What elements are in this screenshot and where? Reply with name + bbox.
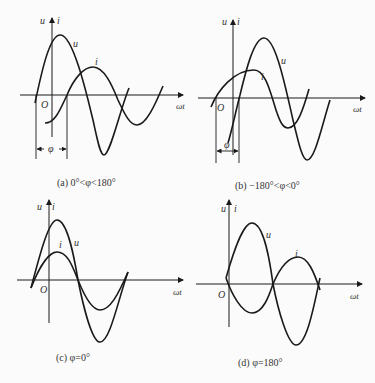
panel-c [17, 200, 183, 342]
i-axis-label: i [52, 202, 55, 212]
x-axis-label: ωt [353, 104, 362, 114]
i-curve-label: i [295, 249, 298, 259]
phase-label: φ [48, 144, 54, 154]
i-curve [211, 70, 309, 128]
x-axis-label: ωt [350, 291, 359, 301]
u-axis-label: u [221, 204, 226, 214]
i-axis-label: i [57, 16, 60, 26]
u-axis-label: u [222, 17, 227, 27]
i-curve-label: i [59, 240, 62, 250]
panel-a [20, 18, 183, 159]
i-axis-label: i [234, 204, 237, 214]
i-curve [45, 67, 163, 125]
origin-label: O [40, 285, 47, 295]
i-curve [31, 252, 128, 310]
caption-b: (b) −180°<φ<0° [235, 180, 300, 191]
caption-c: (c) φ=0° [56, 352, 90, 363]
panel-d [196, 200, 362, 345]
u-axis-label: u [40, 16, 45, 26]
phase-difference-diagram [0, 0, 375, 383]
origin-label: O [217, 103, 224, 113]
u-curve-label: u [73, 39, 78, 49]
caption-d: (d) φ=180° [238, 357, 283, 368]
i-curve [226, 257, 320, 313]
origin-label: O [218, 290, 225, 300]
phase-label: φ [224, 140, 230, 150]
u-curve [31, 220, 128, 342]
x-axis-label: ωt [176, 101, 185, 111]
i-axis-label: i [237, 17, 240, 27]
i-curve-label: i [261, 72, 264, 82]
u-curve-label: u [266, 230, 271, 240]
i-curve-label: i [95, 57, 98, 67]
x-axis-label: ωt [173, 287, 182, 297]
u-curve [228, 38, 330, 160]
u-curve-label: u [74, 238, 79, 248]
origin-label: O [41, 100, 48, 110]
u-curve-label: u [281, 56, 286, 66]
caption-a: (a) 0°<φ<180° [57, 177, 116, 188]
u-axis-label: u [37, 202, 42, 212]
